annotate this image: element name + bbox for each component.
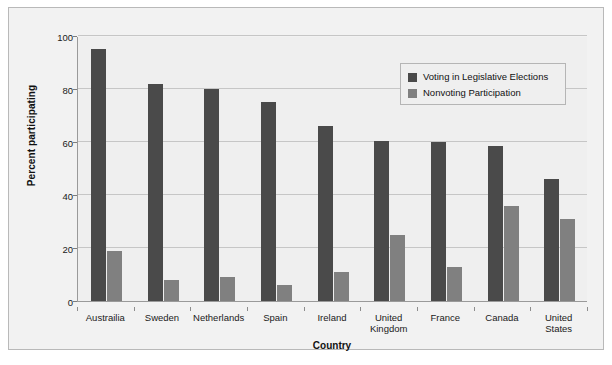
legend-label-voting: Voting in Legislative Elections (423, 72, 548, 82)
x-tick-label-line: Austrailia (77, 313, 134, 324)
bar (544, 179, 559, 301)
x-tick-label-line: Ireland (304, 313, 361, 324)
x-tick-label: Sweden (134, 313, 191, 324)
x-tick-label-line: Sweden (134, 313, 191, 324)
x-tick-mark (304, 307, 305, 311)
y-tick-label: 60 (33, 139, 73, 149)
x-tick-label: Netherlands (190, 313, 247, 324)
legend-swatch-nonvoting-icon (408, 89, 417, 98)
x-tick-mark (417, 307, 418, 311)
x-tick-mark (190, 307, 191, 311)
x-tick-label-line: United (360, 313, 417, 324)
y-tick-label: 100 (33, 33, 73, 43)
y-tick-label: 80 (33, 86, 73, 96)
x-tick-label: UnitedKingdom (360, 313, 417, 334)
x-tick-label-line: Netherlands (190, 313, 247, 324)
x-tick-mark (587, 307, 588, 311)
chart-legend: Voting in Legislative Elections Nonvotin… (400, 63, 566, 105)
bar (107, 251, 122, 301)
bar (447, 267, 462, 301)
y-axis-tick-labels: 020406080100 (29, 37, 73, 302)
bar (277, 285, 292, 301)
bar (560, 219, 575, 301)
bar (164, 280, 179, 301)
x-tick-label: UnitedStates (530, 313, 587, 334)
bar (220, 277, 235, 301)
gridline (78, 35, 587, 36)
y-tick-label: 0 (33, 298, 73, 308)
bar (334, 272, 349, 301)
x-tick-label: Ireland (304, 313, 361, 324)
bar (374, 141, 389, 301)
bar (91, 49, 106, 301)
x-tick-label-line: France (417, 313, 474, 324)
x-tick-mark (530, 307, 531, 311)
bar (318, 126, 333, 301)
x-tick-label: Austrailia (77, 313, 134, 324)
bar (431, 142, 446, 301)
x-tick-mark (77, 307, 78, 311)
x-tick-label-line: Canada (474, 313, 531, 324)
bar (204, 89, 219, 301)
legend-label-nonvoting: Nonvoting Participation (423, 88, 521, 98)
x-tick-mark (360, 307, 361, 311)
legend-item-voting: Voting in Legislative Elections (408, 69, 565, 85)
bar (488, 146, 503, 301)
x-tick-label: France (417, 313, 474, 324)
bar (504, 206, 519, 301)
x-tick-label-line: United (530, 313, 587, 324)
legend-item-nonvoting: Nonvoting Participation (408, 85, 565, 101)
x-axis-title: Country (77, 340, 587, 351)
x-tick-label-line: States (530, 324, 587, 335)
chart-screenshot: Percent participating 020406080100 Austr… (0, 0, 612, 365)
x-tick-mark (134, 307, 135, 311)
x-tick-mark (474, 307, 475, 311)
bar (148, 84, 163, 301)
x-tick-label: Spain (247, 313, 304, 324)
legend-swatch-voting-icon (408, 73, 417, 82)
bar (261, 102, 276, 301)
y-tick-label: 20 (33, 245, 73, 255)
x-axis-tick-labels: AustrailiaSwedenNetherlandsSpainIrelandU… (77, 307, 587, 339)
bar (390, 235, 405, 301)
x-tick-label-line: Kingdom (360, 324, 417, 335)
y-tick-label: 40 (33, 192, 73, 202)
x-tick-label: Canada (474, 313, 531, 324)
chart-frame: Percent participating 020406080100 Austr… (8, 7, 604, 350)
x-tick-mark (247, 307, 248, 311)
x-tick-label-line: Spain (247, 313, 304, 324)
